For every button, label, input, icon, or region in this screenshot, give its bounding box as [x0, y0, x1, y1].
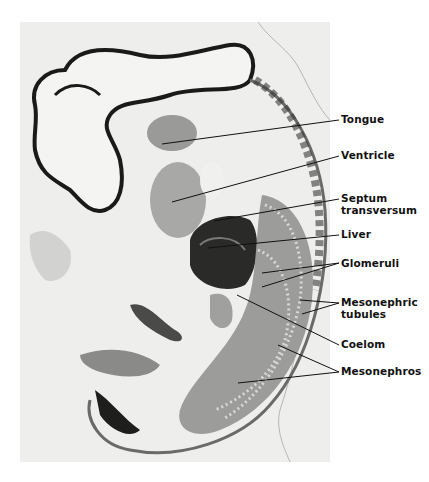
- label-tubules: tubules: [341, 309, 386, 320]
- leader-mesonephros-2: [238, 372, 339, 383]
- leader-mesonephros-1: [278, 345, 339, 372]
- leader-septum: [214, 199, 339, 221]
- leader-lines: [0, 0, 429, 482]
- leader-liver: [208, 235, 339, 248]
- leader-coelom: [237, 295, 339, 345]
- label-mesonephric: Mesonephric: [341, 297, 418, 308]
- leader-tubules-2: [302, 303, 339, 314]
- label-mesonephros: Mesonephros: [341, 366, 421, 377]
- label-septum: Septum: [341, 193, 387, 204]
- leader-tubules-1: [300, 300, 339, 303]
- leader-glomeruli-1: [262, 263, 339, 273]
- label-transversum: transversum: [341, 205, 417, 216]
- label-liver: Liver: [341, 229, 371, 240]
- label-coelom: Coelom: [341, 339, 385, 350]
- leader-ventricle: [172, 156, 339, 202]
- label-glomeruli: Glomeruli: [341, 258, 399, 269]
- label-ventricle: Ventricle: [341, 150, 395, 161]
- leader-tongue: [162, 120, 339, 144]
- label-tongue: Tongue: [341, 114, 384, 125]
- leader-glomeruli-2: [262, 263, 339, 287]
